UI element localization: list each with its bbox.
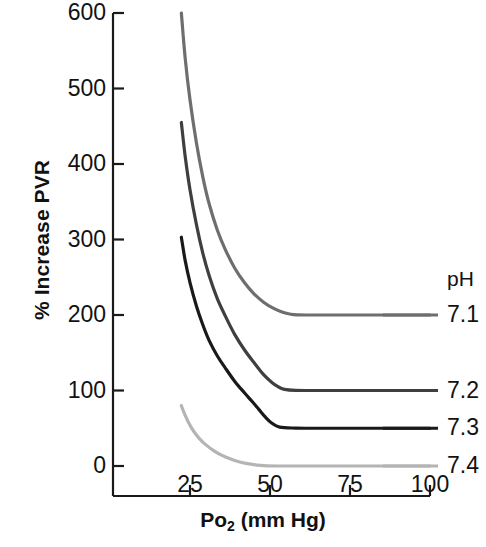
data-series-group <box>181 13 430 466</box>
legend-label-ph-7-2: 7.2 <box>447 379 486 402</box>
y-axis-tick-label: 400 <box>44 152 106 175</box>
y-axis-tick-label: 600 <box>44 1 106 24</box>
x-axis-tick-label: 25 <box>155 473 225 496</box>
x-axis-title: Po2 (mm Hg) <box>113 508 413 532</box>
series-line-ph-7-2 <box>181 122 430 390</box>
chart-figure: % Increase PVR Po2 (mm Hg) 0100200300400… <box>0 0 486 547</box>
x-axis-title-subscript: 2 <box>227 518 235 534</box>
y-axis-tick-label: 0 <box>44 454 106 477</box>
series-line-ph-7-4 <box>181 406 430 466</box>
x-axis-tick-label: 75 <box>315 473 385 496</box>
x-axis-title-unit: (mm Hg) <box>235 508 326 531</box>
legend-title: pH <box>447 268 474 289</box>
legend-label-ph-7-4: 7.4 <box>447 454 486 477</box>
x-axis-tick-label: 50 <box>235 473 305 496</box>
series-line-ph-7-1 <box>181 13 430 315</box>
y-axis-tick-label: 300 <box>44 228 106 251</box>
series-line-ph-7-3 <box>181 237 430 428</box>
legend-label-ph-7-1: 7.1 <box>447 303 486 326</box>
y-axis-tick-label: 100 <box>44 379 106 402</box>
y-axis-tick-label: 500 <box>44 77 106 100</box>
y-axis-tick-label: 200 <box>44 303 106 326</box>
legend-swatches <box>383 315 438 466</box>
legend-label-ph-7-3: 7.3 <box>447 416 486 439</box>
x-axis-title-base: Po <box>200 508 227 531</box>
